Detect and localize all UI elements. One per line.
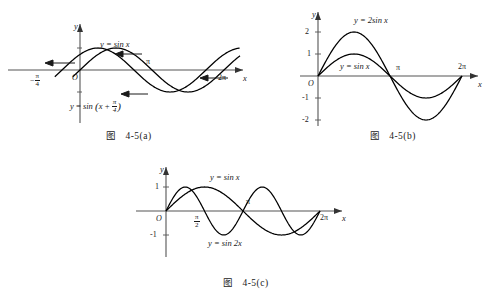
curve-label-sin-x-b: y = sin x [340,62,370,71]
origin-label-a: O [72,74,78,82]
y-tick-neg1-c: -1 [150,231,157,239]
y-axis-label-c: y [160,165,164,174]
fraction-pi-over-4-a: π 4 [35,73,41,89]
y-tick-1-c: 1 [155,183,159,191]
x-tick-2pi-c: 2π [320,214,328,222]
figure-panel-a: y x O π 2π − π 4 y = sin x y = sin (x + … [0,0,258,150]
curve-label-sin-x-plus-pi4-a: y = sin (x + π 4 ) [70,99,121,115]
y-tick-1-b: 1 [307,50,311,58]
figure-panel-c: y x O 1 -1 π 2 π 2π y = sin x y = sin 2x… [128,155,364,298]
plot-a [0,0,258,130]
y-axis-label-a: y [74,22,78,31]
curve-label-sin-2x-c: y = sin 2x [208,239,242,248]
x-tick-2pi-a: 2π [218,74,226,82]
y-tick-neg2-b: -2 [302,116,309,124]
caption-b: 图 4-5(b) [292,128,494,142]
x-axis-arrowhead-a [235,67,243,73]
origin-label-c: O [156,215,162,223]
figure-panel-b: y x O 2 1 -1 -2 π 2π y = 2sin x y = sin … [292,0,494,150]
x-axis-arrowhead-c [334,208,342,214]
x-tick-2pi-b: 2π [458,63,466,71]
x-axis-label-b: x [478,80,482,89]
y-tick-neg1-b: -1 [302,94,309,102]
fraction-denominator-c: 2 [194,222,200,229]
x-tick-pi-a: π [146,58,150,66]
y-tick-2-b: 2 [305,28,309,36]
equation-var-a: x + [99,102,112,111]
fraction-denominator-a: 4 [35,81,41,88]
origin-label-b: O [308,80,314,88]
x-axis-arrowhead-b [470,73,478,79]
curve-label-sin-x-a: y = sin x [100,40,130,49]
x-tick-pi-b: π [396,64,400,72]
x-axis-label-a: x [243,74,247,83]
x-tick-neg-pi-over-4-a: − π 4 [30,73,40,89]
y-axis-label-b: y [312,10,316,19]
x-tick-pi-c: π [246,198,250,206]
caption-c: 图 4-5(c) [128,275,364,289]
caption-a: 图 4-5(a) [0,128,258,142]
fraction-pi-over-2-c: π 2 [194,214,200,230]
x-tick-pi-over-2-c: π 2 [194,214,200,230]
x-axis-label-c: x [342,214,346,223]
close-paren-a: ) [117,100,121,112]
curve-label-sin-x-c: y = sin x [210,173,240,182]
curve-label-2-sin-x-b: y = 2sin x [354,16,388,25]
equation-lhs-a: y = sin [70,102,93,111]
